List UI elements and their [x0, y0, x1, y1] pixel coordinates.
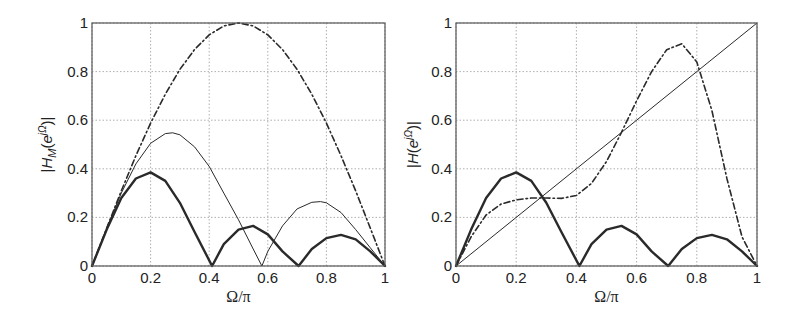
series-line: [456, 172, 757, 266]
x-axis-label: Ω/π: [594, 288, 618, 305]
y-tick-label: 0.4: [431, 160, 452, 177]
figure: 00.20.40.60.8100.20.40.60.81Ω/π|HM(ejΩ)|…: [0, 0, 788, 314]
y-tick-label: 0.2: [431, 208, 452, 225]
x-tick-label: 0.2: [506, 269, 527, 286]
y-tick-label: 0.6: [67, 111, 88, 128]
y-tick-label: 0.8: [67, 63, 88, 80]
y-tick-label: 0.6: [431, 111, 452, 128]
y-axis-label: |HM(ejΩ)|: [37, 116, 58, 172]
y-tick-label: 0: [80, 257, 88, 274]
right-plot: 00.20.40.60.8100.20.40.60.81Ω/π|H(ejΩ)|: [403, 14, 761, 305]
x-axis-label: Ω/π: [226, 288, 250, 305]
x-tick-label: 0.4: [199, 269, 220, 286]
x-tick-label: 0.6: [626, 269, 647, 286]
x-tick-label: 0.6: [257, 269, 278, 286]
x-tick-label: 0: [452, 269, 460, 286]
y-tick-label: 0.8: [431, 63, 452, 80]
series-line: [92, 133, 385, 266]
x-tick-label: 1: [753, 269, 761, 286]
y-tick-label: 0: [444, 257, 452, 274]
left-plot: 00.20.40.60.8100.20.40.60.81Ω/π|HM(ejΩ)|: [37, 14, 389, 305]
y-tick-label: 1: [80, 14, 88, 31]
x-tick-label: 0.2: [140, 269, 161, 286]
y-tick-label: 1: [444, 14, 452, 31]
y-tick-label: 0.2: [67, 208, 88, 225]
x-tick-label: 1: [381, 269, 389, 286]
x-tick-label: 0.8: [686, 269, 707, 286]
x-tick-label: 0: [88, 269, 96, 286]
x-tick-label: 0.8: [316, 269, 337, 286]
y-tick-label: 0.4: [67, 160, 88, 177]
x-tick-label: 0.4: [566, 269, 587, 286]
series-line: [456, 44, 757, 266]
y-axis-label: |H(ejΩ)|: [403, 121, 421, 168]
